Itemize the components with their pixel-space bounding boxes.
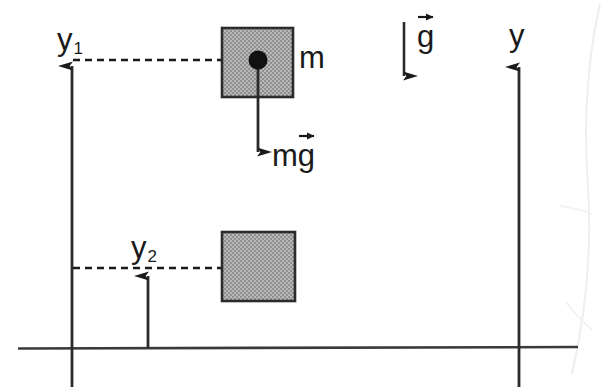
label-gravity-vector: g (417, 21, 434, 52)
label-y1: y1 (57, 24, 82, 55)
label-y1-subscript: 1 (74, 39, 83, 58)
label-mass: m (299, 42, 325, 73)
label-y2: y2 (131, 232, 156, 263)
label-weight-vector: g (298, 140, 315, 171)
label-weight-vector-symbol: g (298, 138, 315, 173)
block-lower (222, 232, 295, 301)
ground-line (18, 347, 578, 349)
scan-edge-artifact (560, 4, 600, 374)
physics-diagram: y1 y2 y m mg g (0, 0, 602, 387)
vector-arrow-icon (299, 131, 318, 140)
label-weight-base: m (272, 138, 298, 173)
label-y2-base: y (131, 230, 147, 265)
label-y1-base: y (57, 22, 73, 57)
label-gravity: g (417, 21, 434, 52)
center-of-mass-dot (249, 51, 268, 70)
label-weight: mg (272, 140, 315, 171)
label-gravity-vector-symbol: g (417, 19, 434, 54)
vector-arrow-icon (418, 12, 437, 21)
label-y2-subscript: 2 (148, 247, 157, 266)
label-y-axis: y (509, 20, 525, 51)
